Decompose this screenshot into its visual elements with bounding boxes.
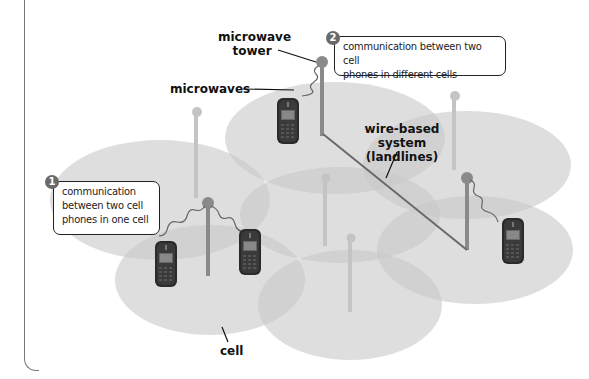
callout-one-cell: communication between two cell phones in… [53,181,160,235]
callout-line: phones in one cell [62,213,151,227]
cell-label: cell [220,344,243,358]
callout-line: communication between two cell [343,40,497,68]
callout-line: between two cell [62,199,151,213]
cell-phone-icon [239,229,261,275]
wire-based-system-label: wire-based system (landlines) [346,122,458,164]
microwaves-label: microwaves [170,82,250,96]
callout-number-badge: 2 [326,31,340,45]
label-line: (landlines) [346,150,458,164]
label-line: microwave [218,30,286,44]
cell-network-diagram: microwave tower microwaves wire-based sy… [0,0,589,379]
callout-line: communication [62,185,151,199]
label-line: wire-based system [346,122,458,150]
cell-phone-icon [502,218,524,264]
cell-phone-icon [277,98,299,144]
callout-different-cells: communication between two cell phones in… [334,36,506,76]
label-line: tower [218,44,286,58]
cell-phone-icon [155,241,177,287]
callout-line: phones in different cells [343,68,497,82]
microwave-tower-label: microwave tower [218,30,286,58]
callout-number-badge: 1 [45,175,59,189]
